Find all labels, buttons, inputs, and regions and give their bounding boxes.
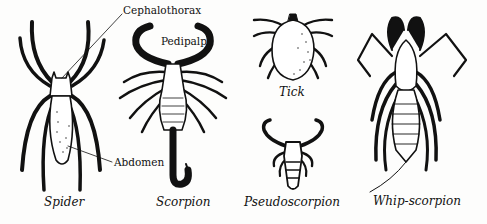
label-pedipalp: Pedipalp	[161, 35, 207, 47]
caption-whip-scorpion: Whip-scorpion	[373, 194, 461, 208]
label-cephalothorax: Cephalothorax	[123, 4, 201, 16]
label-abdomen: Abdomen	[114, 156, 164, 168]
whip-scorpion-drawing	[358, 17, 466, 192]
arachnid-illustrations	[0, 0, 487, 224]
spider-drawing	[20, 14, 122, 190]
caption-pseudoscorpion: Pseudoscorpion	[244, 195, 340, 209]
caption-scorpion: Scorpion	[156, 195, 210, 209]
pseudoscorpion-drawing	[264, 120, 323, 189]
caption-spider: Spider	[44, 195, 84, 209]
caption-tick: Tick	[279, 85, 305, 99]
figure-canvas: Cephalothorax Pedipalp Abdomen Spider Sc…	[0, 0, 487, 224]
tick-drawing	[254, 14, 332, 80]
